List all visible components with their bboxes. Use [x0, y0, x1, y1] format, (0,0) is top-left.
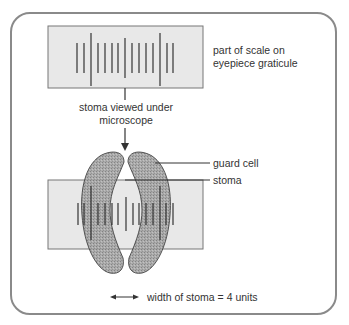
- top-graticule-scale: [48, 26, 203, 88]
- guard-cell-label: guard cell: [213, 157, 259, 170]
- legend-label: width of stoma = 4 units: [147, 291, 258, 304]
- stoma-label: stoma: [213, 174, 242, 187]
- viewed-label: stoma viewed under microscope: [72, 101, 180, 127]
- viewed-label-line2: microscope: [72, 114, 180, 127]
- scale-label-line2: eyepiece graticule: [213, 57, 298, 70]
- scale-label-line1: part of scale on: [213, 44, 298, 57]
- viewed-label-line1: stoma viewed under: [72, 101, 180, 114]
- arrowhead-icon: [121, 143, 129, 151]
- double-arrow-icon: [110, 295, 139, 300]
- scale-label: part of scale on eyepiece graticule: [213, 44, 298, 70]
